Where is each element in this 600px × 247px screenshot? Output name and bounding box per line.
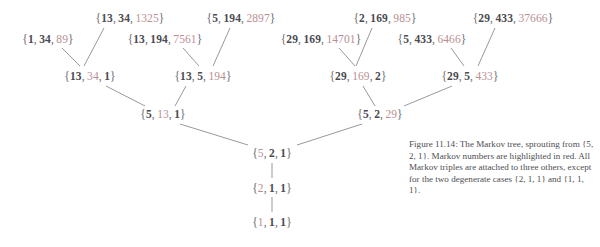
tree-node-n_5_13_1: {5, 13, 1} bbox=[140, 108, 185, 120]
triple-entry: 13 bbox=[101, 12, 113, 24]
triple-entry: 169 bbox=[370, 12, 388, 24]
close-brace: } bbox=[493, 70, 499, 82]
tree-node-n_1_1_1: {1, 1, 1} bbox=[252, 216, 292, 228]
markov-number: 7561 bbox=[173, 33, 196, 45]
close-brace: } bbox=[411, 12, 417, 24]
tree-node-n_13_34_1: {13, 34, 1} bbox=[64, 70, 115, 82]
tree-edge bbox=[183, 48, 199, 66]
markov-number: 29 bbox=[385, 108, 397, 120]
tree-node-n_2_169_985: {2, 169, 985} bbox=[353, 12, 416, 24]
figure-caption-text: Figure 11.14: The Markov tree, sprouting… bbox=[409, 139, 593, 195]
markov-number: 2897 bbox=[246, 12, 269, 24]
tree-edge bbox=[404, 86, 452, 106]
close-brace: } bbox=[286, 182, 292, 194]
tree-node-n_5_2_29: {5, 2, 29} bbox=[357, 108, 402, 120]
tree-node-n_29_433_37666: {29, 433, 37666} bbox=[473, 12, 554, 24]
close-brace: } bbox=[270, 12, 276, 24]
tree-node-n_1_34_89: {1, 34, 89} bbox=[22, 33, 73, 45]
markov-number: 194 bbox=[208, 70, 226, 82]
close-brace: } bbox=[461, 33, 467, 45]
triple-entry: 34 bbox=[118, 12, 130, 24]
triple-entry: 13 bbox=[70, 70, 82, 82]
close-brace: } bbox=[548, 12, 554, 24]
tree-edge bbox=[62, 48, 80, 66]
tree-node-n_29_169_14701: {29, 169, 14701} bbox=[281, 33, 362, 45]
tree-node-n_2_1_1: {2, 1, 1} bbox=[252, 182, 292, 194]
triple-entry: 169 bbox=[303, 33, 321, 45]
triple-entry: 194 bbox=[223, 12, 241, 24]
tree-edge bbox=[363, 86, 375, 106]
tree-edge bbox=[175, 86, 186, 106]
markov-number: 34 bbox=[87, 70, 99, 82]
figure-canvas: {1, 34, 89}{13, 34, 1325}{13, 194, 7561}… bbox=[0, 0, 600, 247]
tree-edge bbox=[451, 48, 464, 66]
triple-entry: 29 bbox=[447, 70, 459, 82]
close-brace: } bbox=[356, 33, 362, 45]
triple-entry: 29 bbox=[335, 70, 347, 82]
close-brace: } bbox=[226, 70, 232, 82]
tree-node-n_13_5_194: {13, 5, 194} bbox=[174, 70, 231, 82]
tree-edge bbox=[106, 86, 145, 106]
close-brace: } bbox=[180, 108, 186, 120]
close-brace: } bbox=[197, 33, 203, 45]
figure-caption: Figure 11.14: The Markov tree, sprouting… bbox=[409, 139, 595, 197]
markov-number: 14701 bbox=[326, 33, 355, 45]
markov-number: 37666 bbox=[518, 12, 547, 24]
close-brace: } bbox=[110, 70, 116, 82]
tree-node-n_5_194_2897: {5, 194, 2897} bbox=[207, 12, 276, 24]
markov-number: 89 bbox=[56, 33, 68, 45]
tree-node-n_5_2_1: {5, 2, 1} bbox=[252, 147, 292, 159]
markov-number: 13 bbox=[157, 108, 169, 120]
tree-edge bbox=[478, 28, 495, 66]
triple-entry: 13 bbox=[180, 70, 192, 82]
markov-number: 985 bbox=[393, 12, 411, 24]
close-brace: } bbox=[381, 70, 387, 82]
close-brace: } bbox=[68, 33, 74, 45]
tree-node-n_13_34_1325: {13, 34, 1325} bbox=[96, 12, 165, 24]
triple-entry: 194 bbox=[150, 33, 168, 45]
triple-entry: 29 bbox=[478, 12, 490, 24]
close-brace: } bbox=[286, 216, 292, 228]
tree-node-n_5_433_6466: {5, 433, 6466} bbox=[398, 33, 467, 45]
triple-entry: 34 bbox=[39, 33, 51, 45]
markov-number: 1325 bbox=[135, 12, 158, 24]
close-brace: } bbox=[397, 108, 403, 120]
tree-node-n_13_194_7561: {13, 194, 7561} bbox=[128, 33, 203, 45]
tree-edge bbox=[213, 28, 230, 66]
close-brace: } bbox=[286, 147, 292, 159]
close-brace: } bbox=[159, 12, 165, 24]
tree-node-n_29_169_2: {29, 169, 2} bbox=[329, 70, 386, 82]
markov-number: 6466 bbox=[437, 33, 460, 45]
triple-entry: 29 bbox=[286, 33, 298, 45]
triple-entry: 433 bbox=[495, 12, 513, 24]
tree-edge bbox=[84, 28, 104, 66]
triple-entry: 13 bbox=[133, 33, 145, 45]
triple-entry: 433 bbox=[414, 33, 432, 45]
tree-node-n_29_5_433: {29, 5, 433} bbox=[441, 70, 498, 82]
markov-number: 169 bbox=[352, 70, 370, 82]
tree-edge bbox=[339, 48, 355, 66]
markov-number: 433 bbox=[475, 70, 493, 82]
tree-edge bbox=[297, 124, 362, 145]
tree-edge bbox=[180, 124, 248, 145]
